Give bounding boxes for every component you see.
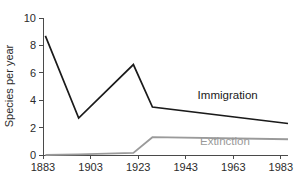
- x-tick-label: 1943: [173, 161, 197, 173]
- series-label-immigration: Immigration: [198, 89, 258, 101]
- y-tick-label: 2: [30, 122, 36, 134]
- y-axis-title: Species per year: [3, 44, 15, 127]
- y-tick-label: 10: [24, 12, 36, 24]
- line-chart: 0246810 188319031923194319631983 Immigra…: [0, 0, 294, 187]
- x-tick-label: 1923: [126, 161, 150, 173]
- x-axis-group: 188319031923194319631983: [31, 155, 293, 173]
- series-label-extinction: Extinction: [200, 135, 250, 147]
- y-tick-label: 0: [30, 149, 36, 161]
- y-tick-label: 8: [30, 39, 36, 51]
- annotation-group: ImmigrationExtinction: [198, 89, 258, 147]
- y-tick-label: 4: [30, 94, 36, 106]
- series-line-extinction: [45, 137, 288, 155]
- x-tick-label: 1963: [221, 161, 245, 173]
- x-tick-label: 1903: [78, 161, 102, 173]
- series-line-immigration: [45, 36, 288, 124]
- x-tick-group: 188319031923194319631983: [31, 155, 293, 173]
- x-tick-label: 1883: [31, 161, 55, 173]
- chart-container: 0246810 188319031923194319631983 Immigra…: [0, 0, 294, 187]
- y-axis-group: 0246810: [24, 12, 43, 161]
- y-tick-label: 6: [30, 67, 36, 79]
- y-tick-group: 0246810: [24, 12, 43, 161]
- x-tick-label: 1983: [269, 161, 293, 173]
